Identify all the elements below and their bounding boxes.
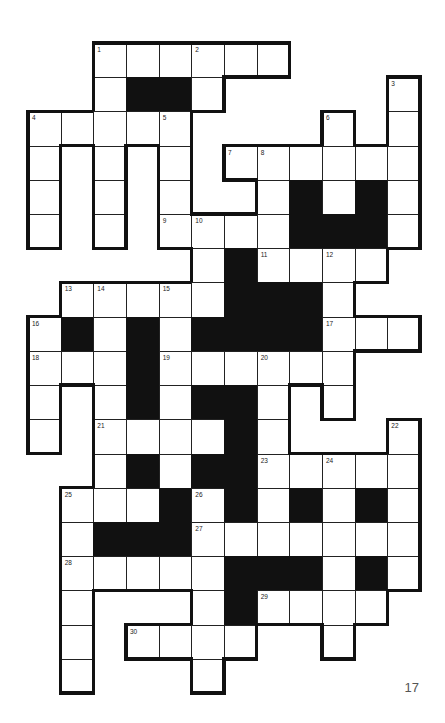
- grid-cell[interactable]: 12: [322, 248, 356, 283]
- grid-cell[interactable]: 21: [93, 419, 127, 454]
- grid-cell[interactable]: 28: [61, 556, 95, 591]
- grid-cell[interactable]: 18: [28, 351, 62, 386]
- grid-cell[interactable]: 26: [191, 488, 225, 523]
- grid-cell[interactable]: [93, 111, 127, 146]
- grid-cell[interactable]: 19: [159, 351, 193, 386]
- grid-cell[interactable]: 25: [61, 488, 95, 523]
- grid-cell[interactable]: [322, 488, 356, 523]
- grid-cell[interactable]: 29: [257, 590, 291, 625]
- grid-cell[interactable]: [322, 625, 356, 660]
- grid-cell[interactable]: [93, 488, 127, 523]
- grid-cell[interactable]: [126, 282, 160, 317]
- grid-cell[interactable]: [257, 488, 291, 523]
- grid-cell[interactable]: 3: [387, 77, 421, 112]
- grid-cell[interactable]: [191, 590, 225, 625]
- grid-cell[interactable]: 8: [257, 146, 291, 181]
- grid-cell[interactable]: [159, 625, 193, 660]
- grid-cell[interactable]: [289, 248, 323, 283]
- grid-cell[interactable]: [355, 317, 389, 352]
- grid-cell[interactable]: [257, 43, 291, 78]
- grid-cell[interactable]: [257, 419, 291, 454]
- grid-cell[interactable]: [126, 556, 160, 591]
- grid-cell[interactable]: 23: [257, 454, 291, 489]
- grid-cell[interactable]: 15: [159, 282, 193, 317]
- grid-cell[interactable]: [257, 522, 291, 557]
- grid-cell[interactable]: [28, 146, 62, 181]
- grid-cell[interactable]: [126, 111, 160, 146]
- grid-cell[interactable]: [159, 454, 193, 489]
- grid-cell[interactable]: 11: [257, 248, 291, 283]
- grid-cell[interactable]: [322, 385, 356, 420]
- grid-cell[interactable]: [224, 351, 258, 386]
- grid-cell[interactable]: [387, 488, 421, 523]
- grid-cell[interactable]: 1: [93, 43, 127, 78]
- grid-cell[interactable]: [61, 522, 95, 557]
- grid-cell[interactable]: [322, 146, 356, 181]
- grid-cell[interactable]: [159, 556, 193, 591]
- grid-cell[interactable]: [28, 385, 62, 420]
- grid-cell[interactable]: [61, 111, 95, 146]
- grid-cell[interactable]: [191, 77, 225, 112]
- grid-cell[interactable]: [387, 556, 421, 591]
- grid-cell[interactable]: 7: [224, 146, 258, 181]
- grid-cell[interactable]: [93, 180, 127, 215]
- grid-cell[interactable]: 5: [159, 111, 193, 146]
- grid-cell[interactable]: [224, 214, 258, 249]
- grid-cell[interactable]: 13: [61, 282, 95, 317]
- grid-cell[interactable]: 14: [93, 282, 127, 317]
- grid-cell[interactable]: 17: [322, 317, 356, 352]
- grid-cell[interactable]: 30: [126, 625, 160, 660]
- grid-cell[interactable]: [355, 590, 389, 625]
- grid-cell[interactable]: [355, 522, 389, 557]
- grid-cell[interactable]: [387, 214, 421, 249]
- grid-cell[interactable]: [93, 556, 127, 591]
- grid-cell[interactable]: [159, 43, 193, 78]
- grid-cell[interactable]: 22: [387, 419, 421, 454]
- grid-cell[interactable]: [387, 180, 421, 215]
- grid-cell[interactable]: [61, 659, 95, 694]
- grid-cell[interactable]: [159, 146, 193, 181]
- grid-cell[interactable]: [224, 625, 258, 660]
- grid-cell[interactable]: [28, 419, 62, 454]
- grid-cell[interactable]: [191, 659, 225, 694]
- grid-cell[interactable]: 2: [191, 43, 225, 78]
- grid-cell[interactable]: 10: [191, 214, 225, 249]
- grid-cell[interactable]: [355, 248, 389, 283]
- grid-cell[interactable]: [224, 522, 258, 557]
- grid-cell[interactable]: [322, 556, 356, 591]
- grid-cell[interactable]: 24: [322, 454, 356, 489]
- grid-cell[interactable]: [191, 556, 225, 591]
- grid-cell[interactable]: [355, 146, 389, 181]
- grid-cell[interactable]: [289, 146, 323, 181]
- grid-cell[interactable]: [322, 590, 356, 625]
- grid-cell[interactable]: [289, 590, 323, 625]
- grid-cell[interactable]: [322, 180, 356, 215]
- grid-cell[interactable]: [126, 419, 160, 454]
- grid-cell[interactable]: [93, 351, 127, 386]
- grid-cell[interactable]: [355, 454, 389, 489]
- grid-cell[interactable]: [28, 180, 62, 215]
- grid-cell[interactable]: [61, 625, 95, 660]
- grid-cell[interactable]: [191, 625, 225, 660]
- grid-cell[interactable]: [387, 146, 421, 181]
- grid-cell[interactable]: 6: [322, 111, 356, 146]
- grid-cell[interactable]: [224, 43, 258, 78]
- grid-cell[interactable]: 16: [28, 317, 62, 352]
- grid-cell[interactable]: [93, 454, 127, 489]
- grid-cell[interactable]: [257, 180, 291, 215]
- grid-cell[interactable]: [61, 351, 95, 386]
- grid-cell[interactable]: [93, 146, 127, 181]
- grid-cell[interactable]: [126, 488, 160, 523]
- grid-cell[interactable]: [191, 419, 225, 454]
- grid-cell[interactable]: [159, 419, 193, 454]
- grid-cell[interactable]: [257, 214, 291, 249]
- grid-cell[interactable]: [322, 282, 356, 317]
- grid-cell[interactable]: [191, 282, 225, 317]
- grid-cell[interactable]: 27: [191, 522, 225, 557]
- grid-cell[interactable]: [93, 77, 127, 112]
- grid-cell[interactable]: [387, 522, 421, 557]
- grid-cell[interactable]: [387, 111, 421, 146]
- grid-cell[interactable]: [93, 214, 127, 249]
- grid-cell[interactable]: [159, 385, 193, 420]
- grid-cell[interactable]: [93, 385, 127, 420]
